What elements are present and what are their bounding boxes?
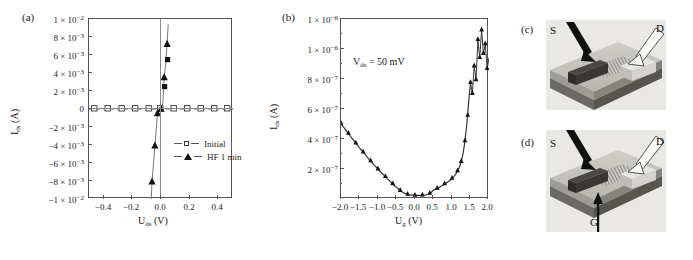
panel-a-x-axis-title: Uds (V): [138, 215, 168, 228]
panel-b-xtick: [487, 195, 488, 199]
panel-a-xtick: [189, 195, 190, 199]
panel-a-ytick: [88, 36, 92, 37]
panel-c: (c): [490, 0, 693, 128]
panel-b-ytick-label: 1 × 10−6: [290, 44, 338, 55]
panel-b-xtick: [451, 195, 452, 199]
panel-a-legend: Initial HF 1 min: [172, 137, 242, 163]
panel-d-label: (d): [521, 136, 534, 148]
series-hf1min-sq-markers: [162, 57, 170, 89]
panel-b-xtick: [395, 195, 396, 199]
panel-a-ytick: [88, 108, 92, 109]
panel-b-ytick-label: 8 × 10−7: [290, 74, 338, 85]
panel-b: (b) Ids (A) 1 × 10−6 1 × 10−6 8 × 10−7 6…: [240, 0, 490, 260]
panel-b-annotation: Vds = 50 mV: [353, 56, 405, 69]
panel-b-ytick-minor: [340, 63, 342, 64]
device-d-svg: [546, 130, 666, 232]
panel-a-ytick-label: 6 × 10−3: [36, 50, 84, 61]
panel-b-xtick: [432, 195, 433, 199]
panel-a-ytick-label: −4 × 10−3: [30, 140, 84, 151]
panel-a-ytick: [88, 162, 92, 163]
panel-a-ytick-label: −8 × 10−3: [30, 176, 84, 187]
panel-b-ytick: [340, 18, 344, 19]
panel-a-ytick: [88, 18, 92, 19]
panel-a: (a) Ids (A) 1 × 10−2 8 × 10−3 6 × 10−3 4…: [0, 0, 240, 260]
panel-a-ytick-label: −1 × 10−2: [30, 194, 84, 205]
panel-a-ytick-label: −2 × 10−3: [30, 122, 84, 133]
panel-a-xtick-label: −0.4: [89, 202, 117, 212]
panel-b-ytick-minor: [340, 153, 342, 154]
panel-b-ytick: [340, 78, 344, 79]
panel-a-ytick: [88, 180, 92, 181]
panel-a-xtick-label: 0.2: [175, 202, 203, 212]
panel-b-data-svg: [341, 19, 489, 199]
panel-d-device-schematic: [546, 130, 666, 232]
panel-c-label: (c): [521, 23, 533, 35]
panel-b-ytick-minor: [340, 123, 342, 124]
panel-b-ytick-label: 2 × 10−7: [290, 164, 338, 175]
legend-label-initial: Initial: [204, 139, 226, 149]
panel-b-ytick-minor: [340, 33, 342, 34]
legend-label-hf1min: HF 1 min: [207, 152, 242, 162]
panel-a-xtick: [131, 195, 132, 199]
panel-a-data-svg: [89, 19, 233, 199]
panel-a-xtick: [217, 195, 218, 199]
panel-b-ytick-label: 4 × 10−7: [290, 134, 338, 145]
panel-a-xtick-label: 0.0: [146, 202, 174, 212]
panel-a-ytick: [88, 54, 92, 55]
panel-c-source-label: S: [550, 24, 556, 36]
panel-b-ytick: [340, 138, 344, 139]
panel-a-ytick-label: 8 × 10−3: [36, 32, 84, 43]
panel-a-label: (a): [22, 11, 34, 23]
panel-a-xtick: [103, 195, 104, 199]
panel-d: (d): [490, 128, 693, 260]
panel-c-device-schematic: [546, 20, 666, 110]
open-square-icon: [184, 141, 189, 146]
panel-b-ytick-minor: [340, 183, 342, 184]
panel-b-ytick-label: 6 × 10−7: [290, 104, 338, 115]
panel-b-xtick: [377, 195, 378, 199]
panel-d-source-label: S: [550, 137, 556, 149]
panel-d-drain-label: D: [656, 135, 664, 147]
legend-item-hf1min: HF 1 min: [172, 150, 242, 163]
panel-a-ytick-label: 2 × 10−3: [36, 86, 84, 97]
panel-b-xtick: [340, 195, 341, 199]
panel-a-ytick: [88, 197, 92, 198]
panel-b-plot-area: [340, 18, 488, 198]
panel-a-ytick-label: 4 × 10−3: [36, 68, 84, 79]
figure-panel-group: (a) Ids (A) 1 × 10−2 8 × 10−3 6 × 10−3 4…: [0, 0, 693, 260]
panel-a-ytick-label: −6 × 10−3: [30, 158, 84, 169]
panel-b-ytick-minor: [340, 93, 342, 94]
legend-line-segment: [174, 143, 182, 144]
legend-line-segment: [191, 143, 199, 144]
panel-a-xtick: [160, 195, 161, 199]
series-transfer-noise: [471, 30, 490, 94]
filled-triangle-icon: [184, 153, 192, 160]
panel-b-ytick: [340, 168, 344, 169]
legend-item-initial: Initial: [172, 137, 242, 150]
panel-a-ytick-label: 1 × 10−2: [36, 14, 84, 25]
panel-a-zero-vline: [160, 19, 161, 199]
panel-b-xtick: [414, 195, 415, 199]
legend-line-segment: [194, 156, 202, 157]
panel-a-ytick: [88, 126, 92, 127]
panel-b-x-axis-title: Ug (V): [395, 215, 422, 228]
panel-b-y-axis-title: Ids (A): [268, 104, 281, 130]
panel-b-ytick: [340, 108, 344, 109]
panel-c-drain-label: D: [656, 22, 664, 34]
legend-line-segment: [174, 156, 182, 157]
panel-a-zero-hline: [89, 108, 233, 109]
panel-a-y-axis-title: Ids (A): [9, 109, 22, 135]
panel-d-gate-label: G: [590, 216, 598, 228]
panel-b-xtick: [358, 195, 359, 199]
panel-b-ytick-label: 1 × 10−6: [290, 14, 338, 25]
panel-a-ytick: [88, 144, 92, 145]
panel-a-plot-area: [88, 18, 232, 198]
panel-b-ytick: [340, 48, 344, 49]
panel-a-ytick-label: 0: [36, 104, 84, 114]
panel-a-xtick-label: 0.4: [203, 202, 231, 212]
panel-b-xtick: [469, 195, 470, 199]
panel-a-xtick-label: −0.2: [117, 202, 145, 212]
panel-a-ytick: [88, 90, 92, 91]
panel-a-ytick: [88, 72, 92, 73]
device-c-svg: [546, 20, 666, 110]
